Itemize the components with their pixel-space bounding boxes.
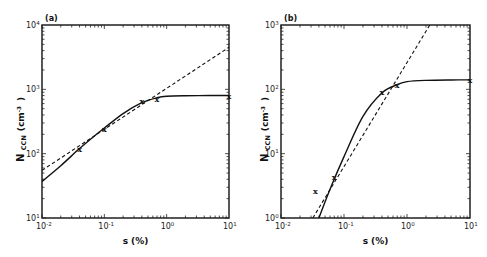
x-tick-label: 101 bbox=[464, 221, 478, 232]
x-tick-label: 10-2 bbox=[36, 221, 52, 232]
x-tick-label: 10-1 bbox=[338, 221, 354, 232]
plot-frame bbox=[281, 25, 470, 218]
panel-label: (b) bbox=[284, 14, 297, 23]
data-marker: x bbox=[332, 172, 337, 182]
x-tick-label: 100 bbox=[401, 221, 415, 232]
y-tick-label: 102 bbox=[265, 84, 279, 95]
x-tick-label: 10-1 bbox=[98, 221, 114, 232]
data-marker: x bbox=[227, 91, 232, 101]
y-tick-label: 103 bbox=[26, 84, 40, 95]
x-tick-label: 101 bbox=[223, 221, 237, 232]
axis-ticks bbox=[42, 25, 229, 218]
x-axis-title: s (%) bbox=[363, 236, 389, 246]
data-marker: x bbox=[102, 124, 107, 134]
data-marker: x bbox=[380, 87, 385, 97]
x-tick-label: 100 bbox=[161, 221, 175, 232]
fit-curve bbox=[319, 80, 470, 218]
x-axis-title: s (%) bbox=[123, 236, 149, 246]
figure: 10-210-1100101101102103104s (%)N CCN(cm-… bbox=[0, 0, 487, 257]
y-tick-label: 104 bbox=[26, 20, 40, 31]
y-tick-label: 102 bbox=[26, 148, 40, 159]
data-marker: x bbox=[468, 75, 473, 85]
fit-curve bbox=[42, 96, 229, 182]
data-marker: x bbox=[395, 80, 400, 90]
panel-label: (a) bbox=[45, 14, 58, 23]
axis-ticks bbox=[281, 25, 470, 218]
data-marker: x bbox=[139, 96, 144, 106]
data-marker: x bbox=[313, 186, 318, 196]
data-marker: x bbox=[77, 144, 82, 154]
panel-a: 10-210-1100101101102103104s (%)N CCN(cm-… bbox=[15, 14, 237, 246]
panel-b: 10-210-1100101100101102103s (%)N CCN(cm-… bbox=[259, 14, 478, 246]
y-tick-label: 103 bbox=[265, 20, 279, 31]
data-marker: x bbox=[155, 94, 160, 104]
plot-frame bbox=[42, 25, 229, 218]
x-tick-label: 10-2 bbox=[275, 221, 291, 232]
power-law-line bbox=[42, 47, 229, 170]
